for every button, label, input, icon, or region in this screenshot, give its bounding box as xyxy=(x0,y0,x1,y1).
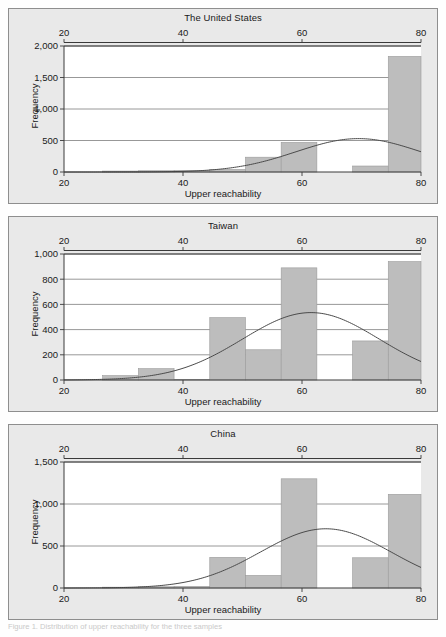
panel-china: China Frequency Upper reachability 20204… xyxy=(8,424,438,620)
svg-text:40: 40 xyxy=(178,235,189,246)
svg-text:40: 40 xyxy=(178,593,189,604)
svg-text:1,000: 1,000 xyxy=(34,103,58,114)
svg-text:800: 800 xyxy=(42,274,58,285)
svg-text:80: 80 xyxy=(416,593,427,604)
plot-area: 202040406060808005001,0001,500 xyxy=(9,425,437,619)
plot-area: 202040406060808005001,0001,5002,000 xyxy=(9,9,437,203)
svg-text:40: 40 xyxy=(178,177,189,188)
svg-text:1,000: 1,000 xyxy=(34,248,58,259)
histogram-svg: 202040406060808002004006008001,000 xyxy=(9,217,439,413)
svg-text:60: 60 xyxy=(297,27,308,38)
svg-text:60: 60 xyxy=(297,593,308,604)
svg-text:80: 80 xyxy=(416,385,427,396)
svg-text:1,000: 1,000 xyxy=(34,498,58,509)
svg-text:40: 40 xyxy=(178,385,189,396)
histogram-svg: 202040406060808005001,0001,5002,000 xyxy=(9,9,439,205)
svg-text:500: 500 xyxy=(42,135,58,146)
svg-text:60: 60 xyxy=(297,443,308,454)
svg-text:60: 60 xyxy=(297,235,308,246)
svg-text:1,500: 1,500 xyxy=(34,456,58,467)
svg-text:20: 20 xyxy=(59,235,70,246)
svg-text:20: 20 xyxy=(59,593,70,604)
svg-text:40: 40 xyxy=(178,27,189,38)
histogram-svg: 202040406060808005001,0001,500 xyxy=(9,425,439,621)
svg-text:600: 600 xyxy=(42,299,58,310)
svg-text:80: 80 xyxy=(416,177,427,188)
svg-text:1,500: 1,500 xyxy=(34,72,58,83)
panel-the-united-states: The United States Frequency Upper reacha… xyxy=(8,8,438,204)
plot-area: 202040406060808002004006008001,000 xyxy=(9,217,437,411)
svg-text:20: 20 xyxy=(59,385,70,396)
svg-text:80: 80 xyxy=(416,27,427,38)
svg-text:2,000: 2,000 xyxy=(34,40,58,51)
figure-caption: Figure 1. Distribution of upper reachabi… xyxy=(8,622,438,631)
figure-histograms: The United States Frequency Upper reacha… xyxy=(0,0,446,637)
panel-taiwan: Taiwan Frequency Upper reachability 2020… xyxy=(8,216,438,412)
svg-text:40: 40 xyxy=(178,443,189,454)
svg-text:20: 20 xyxy=(59,27,70,38)
svg-text:200: 200 xyxy=(42,349,58,360)
svg-text:80: 80 xyxy=(416,235,427,246)
svg-text:60: 60 xyxy=(297,177,308,188)
svg-text:20: 20 xyxy=(59,177,70,188)
svg-text:60: 60 xyxy=(297,385,308,396)
svg-text:400: 400 xyxy=(42,324,58,335)
svg-text:80: 80 xyxy=(416,443,427,454)
svg-text:0: 0 xyxy=(53,582,58,593)
svg-text:500: 500 xyxy=(42,540,58,551)
svg-text:0: 0 xyxy=(53,166,58,177)
svg-text:20: 20 xyxy=(59,443,70,454)
svg-text:0: 0 xyxy=(53,374,58,385)
